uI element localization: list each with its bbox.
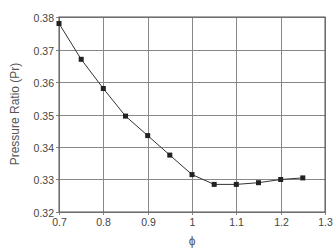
x-tick-label: 1.2 <box>274 216 289 228</box>
x-tick-label: 1.3 <box>318 216 333 228</box>
data-point-marker <box>79 57 84 62</box>
data-point-marker <box>278 177 283 182</box>
x-tick-label: 0.8 <box>96 216 111 228</box>
y-tick-label: 0.35 <box>34 110 55 122</box>
y-tick-label: 0.36 <box>34 77 55 89</box>
data-point-marker <box>57 21 62 26</box>
data-point-marker <box>234 182 239 187</box>
data-point-marker <box>101 86 106 91</box>
data-line <box>59 24 303 185</box>
y-tick-label: 0.33 <box>34 174 55 186</box>
data-point-marker <box>212 182 217 187</box>
y-axis-label: Pressure Ratio (Pr) <box>8 63 22 166</box>
data-point-marker <box>190 172 195 177</box>
grid-lines <box>56 17 326 215</box>
pressure-ratio-chart: 0.380.370.360.350.340.330.32 0.70.80.911… <box>0 0 336 252</box>
data-markers <box>57 21 306 187</box>
data-point-marker <box>300 175 305 180</box>
x-tick-label: 0.7 <box>52 216 67 228</box>
data-point-marker <box>167 153 172 158</box>
y-axis-ticks: 0.380.370.360.350.340.330.32 <box>34 12 55 219</box>
y-tick-label: 0.37 <box>34 45 55 57</box>
y-tick-label: 0.38 <box>34 12 55 24</box>
data-point-marker <box>123 114 128 119</box>
data-point-marker <box>145 133 150 138</box>
x-tick-label: 1.1 <box>229 216 244 228</box>
x-axis-ticks: 0.70.80.911.11.21.3 <box>52 216 333 228</box>
x-tick-label: 1 <box>190 216 196 228</box>
data-point-marker <box>256 180 261 185</box>
x-axis-label: ϕ <box>189 234 196 248</box>
x-tick-label: 0.9 <box>141 216 156 228</box>
y-tick-label: 0.34 <box>34 142 55 154</box>
y-tick-label: 0.32 <box>34 207 55 219</box>
